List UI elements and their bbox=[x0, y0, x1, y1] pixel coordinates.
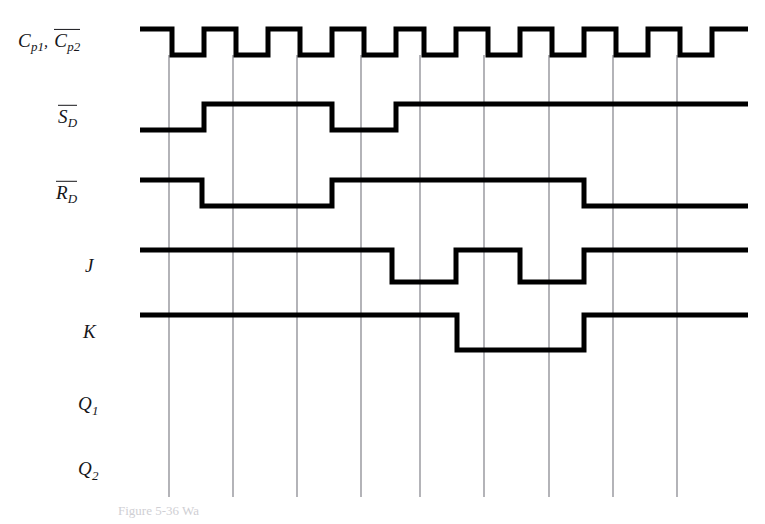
label-subscript: 2 bbox=[92, 468, 99, 483]
signal-label-k: K bbox=[83, 321, 96, 343]
signal-label-j: J bbox=[85, 255, 94, 277]
label-subscript: 1 bbox=[92, 403, 99, 418]
timing-diagram-canvas bbox=[0, 0, 765, 524]
waveform-clock bbox=[140, 29, 748, 55]
label-term: RD bbox=[56, 181, 77, 205]
label-base: K bbox=[83, 321, 96, 342]
label-subscript: D bbox=[68, 115, 77, 130]
label-separator: , bbox=[44, 33, 54, 50]
label-term: SD bbox=[58, 105, 77, 129]
timing-diagram-figure: Cp1, Cp2SDRDJKQ1Q2 Figure 5-36 Wa bbox=[0, 0, 765, 524]
label-subscript: p1 bbox=[31, 39, 44, 54]
signal-label-sd: SD bbox=[58, 105, 77, 129]
label-subscript: p2 bbox=[67, 39, 80, 54]
label-base: R bbox=[56, 182, 68, 203]
signal-label-q2: Q2 bbox=[78, 458, 98, 483]
grid-lines-group bbox=[169, 55, 677, 497]
waveforms-group bbox=[140, 29, 748, 350]
label-base: Q bbox=[78, 458, 92, 479]
label-subscript: D bbox=[68, 191, 77, 206]
figure-caption: Figure 5-36 Wa bbox=[118, 503, 199, 519]
label-base: S bbox=[58, 106, 68, 127]
label-term: Cp1 bbox=[18, 30, 44, 51]
waveform-k bbox=[140, 315, 748, 350]
label-base: C bbox=[54, 30, 67, 51]
waveform-sd bbox=[140, 104, 748, 130]
label-term: Q1 bbox=[78, 393, 98, 414]
waveform-rd bbox=[140, 180, 748, 206]
label-term: K bbox=[83, 321, 96, 342]
label-base: J bbox=[85, 255, 94, 276]
waveform-j bbox=[140, 250, 748, 282]
signal-label-rd: RD bbox=[56, 181, 77, 205]
signal-label-q1: Q1 bbox=[78, 393, 98, 418]
label-base: C bbox=[18, 30, 31, 51]
label-term: Q2 bbox=[78, 458, 98, 479]
label-term: J bbox=[85, 255, 94, 276]
label-term: Cp2 bbox=[54, 29, 80, 53]
label-base: Q bbox=[78, 393, 92, 414]
signal-label-clock: Cp1, Cp2 bbox=[18, 29, 80, 55]
